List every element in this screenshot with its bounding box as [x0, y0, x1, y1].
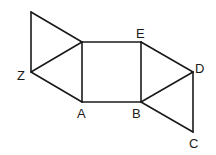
edge-P-Q: [31, 12, 82, 42]
edges: [31, 12, 193, 132]
edge-Z-A: [31, 72, 82, 102]
vertex-labels: Z A E B D C: [17, 26, 204, 151]
label-d: D: [195, 61, 204, 76]
edge-B-D: [141, 72, 193, 102]
label-b: B: [132, 106, 141, 121]
edge-Z-Q: [31, 42, 82, 72]
label-e: E: [136, 26, 145, 41]
label-a: A: [77, 106, 86, 121]
edge-E-D: [141, 42, 193, 72]
geometry-diagram: Z A E B D C: [0, 0, 216, 155]
edge-B-C: [141, 102, 193, 132]
label-c: C: [189, 136, 198, 151]
label-z: Z: [17, 68, 25, 83]
